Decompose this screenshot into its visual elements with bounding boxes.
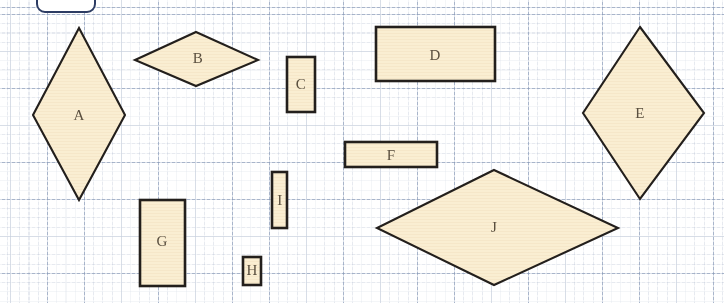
shape-i[interactable] (272, 172, 287, 228)
shape-c[interactable] (287, 57, 315, 112)
shape-h[interactable] (243, 257, 261, 285)
shape-j[interactable] (377, 170, 618, 285)
shape-b[interactable] (135, 32, 258, 86)
shape-a[interactable] (33, 28, 125, 200)
shape-f[interactable] (345, 142, 437, 167)
shape-e[interactable] (583, 27, 704, 199)
worksheet-canvas: ABCDEFGHIJ (0, 0, 724, 303)
shape-g[interactable] (140, 200, 185, 286)
shape-d[interactable] (376, 27, 495, 81)
shapes-layer (0, 0, 724, 303)
